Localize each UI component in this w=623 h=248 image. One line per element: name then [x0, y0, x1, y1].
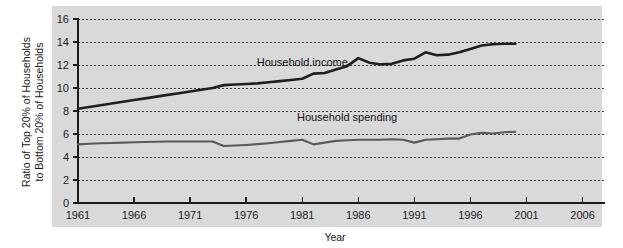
x-tick-label-1976: 1976: [234, 209, 258, 221]
income-spending-line-chart: 0246810121416 19611966197119761981198619…: [0, 0, 623, 248]
x-tick-label-1981: 1981: [290, 209, 314, 221]
y-tick-label-8: 8: [63, 105, 69, 117]
x-tick-label-1961: 1961: [66, 209, 90, 221]
x-tick-label-1996: 1996: [458, 209, 482, 221]
x-tick-label-1986: 1986: [346, 209, 370, 221]
y-tick-label-16: 16: [57, 13, 69, 25]
y-tick-label-12: 12: [57, 59, 69, 71]
y-tick-label-14: 14: [57, 36, 69, 48]
y-axis-title-line2: to Bottom 20% of Households: [33, 43, 45, 182]
y-tick-label-10: 10: [57, 82, 69, 94]
x-tick-label-2001: 2001: [514, 209, 538, 221]
x-tick-label-2006: 2006: [570, 209, 594, 221]
series-label-household-income: Household income: [257, 56, 348, 68]
x-tick-label-1991: 1991: [402, 209, 426, 221]
x-tick-label-1966: 1966: [122, 209, 146, 221]
y-tick-label-0: 0: [63, 197, 69, 209]
x-axis-title: Year: [324, 231, 346, 243]
series-label-household-spending: Household spending: [297, 111, 397, 123]
x-tick-label-1971: 1971: [178, 209, 202, 221]
y-axis-title-line1: Ratio of Top 20% of Households: [20, 37, 32, 187]
chart-container: 0246810121416 19611966197119761981198619…: [0, 0, 623, 248]
y-tick-label-6: 6: [63, 128, 69, 140]
y-tick-label-2: 2: [63, 174, 69, 186]
y-tick-label-4: 4: [63, 151, 69, 163]
